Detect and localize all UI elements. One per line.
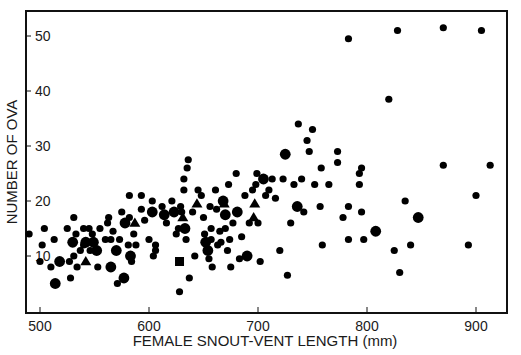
circle-marker: [105, 262, 116, 273]
circle-marker: [128, 258, 135, 265]
circle-marker: [189, 208, 196, 215]
circle-marker: [319, 241, 326, 248]
circle-marker: [130, 230, 137, 237]
circle-marker: [225, 181, 232, 188]
circle-marker: [257, 258, 264, 265]
circle-marker: [232, 207, 243, 218]
circle-marker: [269, 175, 276, 182]
circle-marker: [295, 120, 302, 127]
circle-marker: [159, 209, 170, 220]
circle-marker: [111, 245, 122, 256]
circle-marker: [198, 192, 205, 199]
x-tick-label: 900: [464, 318, 488, 334]
circle-marker: [280, 149, 291, 160]
circle-marker: [345, 203, 352, 210]
circle-marker: [67, 237, 78, 248]
circle-marker: [356, 181, 363, 188]
circle-marker: [36, 258, 43, 265]
circle-marker: [279, 175, 286, 182]
chart-canvas: 500600700800900 1020304050 FEMALE SNOUT-…: [0, 0, 521, 355]
circle-marker: [67, 274, 74, 281]
circle-marker: [184, 164, 191, 171]
y-tick-label: 40: [35, 83, 51, 99]
circle-marker: [396, 269, 403, 276]
circle-marker: [345, 236, 352, 243]
circle-marker: [70, 252, 77, 259]
circle-marker: [206, 203, 213, 210]
circle-marker: [191, 252, 198, 259]
circle-marker: [201, 230, 208, 237]
circle-marker: [287, 219, 294, 226]
circle-marker: [91, 245, 102, 256]
circle-marker: [242, 251, 253, 262]
circle-marker: [241, 192, 248, 199]
y-tick-label: 20: [35, 193, 51, 209]
circle-marker: [472, 192, 479, 199]
circle-marker: [72, 230, 79, 237]
circle-marker: [200, 214, 207, 221]
circle-marker: [141, 217, 148, 224]
circle-marker: [118, 208, 125, 215]
circle-marker: [213, 206, 220, 213]
circle-marker: [209, 263, 216, 270]
circle-marker: [212, 186, 219, 193]
circle-marker: [254, 219, 261, 226]
circle-marker: [70, 214, 77, 221]
circle-marker: [370, 226, 381, 237]
circle-marker: [300, 208, 307, 215]
circle-marker: [334, 159, 341, 166]
circle-marker: [180, 175, 187, 182]
circle-marker: [94, 263, 101, 270]
circle-marker: [265, 186, 272, 193]
circle-marker: [105, 214, 112, 221]
circle-marker: [478, 27, 485, 34]
circle-marker: [39, 241, 46, 248]
circle-marker: [73, 263, 80, 270]
circle-marker: [54, 256, 65, 267]
circle-marker: [290, 181, 297, 188]
circle-marker: [180, 223, 191, 234]
circle-marker: [334, 148, 341, 155]
circle-marker: [325, 181, 332, 188]
circle-marker: [311, 181, 318, 188]
circle-marker: [317, 203, 324, 210]
circle-marker: [89, 230, 96, 237]
scatter-chart: 500600700800900 1020304050 FEMALE SNOUT-…: [0, 0, 521, 355]
circle-marker: [284, 272, 291, 279]
circle-marker: [205, 255, 212, 262]
circle-marker: [440, 162, 447, 169]
circle-marker: [394, 27, 401, 34]
circle-marker: [138, 192, 145, 199]
circle-marker: [126, 192, 133, 199]
circle-marker: [224, 247, 231, 254]
circle-marker: [26, 230, 33, 237]
circle-marker: [64, 225, 71, 232]
circle-marker: [138, 206, 145, 213]
circle-marker: [229, 219, 236, 226]
circle-marker: [220, 209, 231, 220]
x-tick-label: 500: [28, 318, 52, 334]
circle-marker: [180, 186, 187, 193]
circle-marker: [185, 156, 192, 163]
circle-marker: [47, 263, 54, 270]
circle-marker: [208, 236, 215, 243]
circle-marker: [276, 247, 283, 254]
circle-marker: [145, 236, 152, 243]
circle-marker: [217, 239, 224, 246]
circle-marker: [306, 148, 313, 155]
circle-marker: [272, 195, 279, 202]
circle-marker: [182, 236, 189, 243]
square-marker: [175, 257, 184, 266]
circle-marker: [413, 212, 424, 223]
circle-marker: [147, 207, 158, 218]
circle-marker: [298, 175, 305, 182]
circle-marker: [152, 241, 159, 248]
circle-marker: [208, 225, 215, 232]
circle-marker: [252, 181, 259, 188]
circle-marker: [107, 236, 114, 243]
data-points: [26, 24, 494, 295]
circle-marker: [222, 225, 229, 232]
triangle-marker: [191, 198, 202, 207]
circle-marker: [51, 236, 58, 243]
circle-marker: [116, 236, 123, 243]
